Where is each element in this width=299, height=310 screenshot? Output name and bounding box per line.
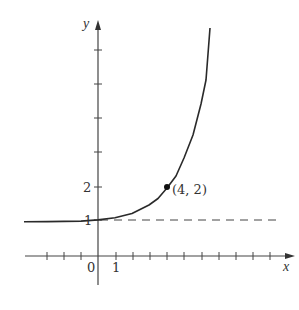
origin-label: 0 [87,260,95,275]
point-label: (4, 2) [172,182,207,197]
y-tick-label-1: 1 [84,213,92,228]
x-axis-label: x [282,259,290,274]
y-axis-label: y [81,16,90,31]
x-tick-label-1: 1 [112,260,120,275]
exponential-graph: y x 0 1 1 2 (4, 2) [0,0,299,310]
y-tick-label-2: 2 [83,180,91,195]
plot-svg: y x 0 1 1 2 (4, 2) [0,0,299,310]
point-4-2 [164,184,170,190]
y-axis-arrow-icon [95,20,101,30]
